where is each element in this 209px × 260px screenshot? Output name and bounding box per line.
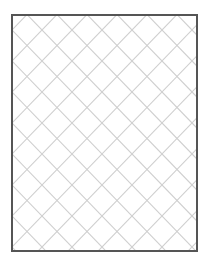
frame-background	[12, 15, 197, 251]
grid-line	[208, 5, 209, 260]
grid-line	[198, 5, 209, 260]
diamond-grid-canvas	[0, 0, 209, 260]
grid-line	[0, 5, 6, 260]
